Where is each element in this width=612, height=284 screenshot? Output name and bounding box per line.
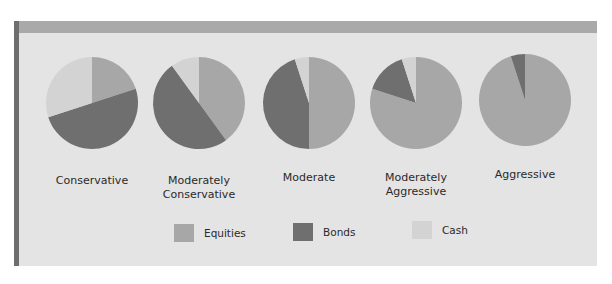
equities-swatch — [174, 224, 194, 242]
label-line: Conservative — [37, 174, 147, 188]
legend-item-equities: Equities — [174, 224, 246, 242]
label-line: Conservative — [144, 188, 254, 202]
pie-label-moderately-conservative: Moderately Conservative — [144, 174, 254, 202]
pie-label-moderately-aggressive: Moderately Aggressive — [361, 171, 471, 199]
pie-conservative — [46, 57, 138, 149]
pie-moderately-aggressive — [370, 57, 462, 149]
label-line: Moderate — [254, 171, 364, 185]
slice-equities — [309, 57, 355, 149]
pie-aggressive — [479, 54, 571, 146]
legend-label: Bonds — [323, 226, 355, 238]
pie-moderately-conservative — [153, 57, 245, 149]
chart-card: Conservative Moderately Conservative Mod… — [14, 21, 597, 266]
pie-label-moderate: Moderate — [254, 171, 364, 185]
label-line: Aggressive — [361, 185, 471, 199]
label-line: Moderately — [144, 174, 254, 188]
legend-label: Cash — [442, 224, 468, 236]
label-line: Moderately — [361, 171, 471, 185]
pie-label-aggressive: Aggressive — [470, 168, 580, 182]
legend-item-cash: Cash — [412, 221, 468, 239]
cash-swatch — [412, 221, 432, 239]
label-line: Aggressive — [470, 168, 580, 182]
legend-item-bonds: Bonds — [293, 223, 355, 241]
legend-label: Equities — [204, 227, 246, 239]
pie-label-conservative: Conservative — [37, 174, 147, 188]
bonds-swatch — [293, 223, 313, 241]
pie-moderate — [263, 57, 355, 149]
